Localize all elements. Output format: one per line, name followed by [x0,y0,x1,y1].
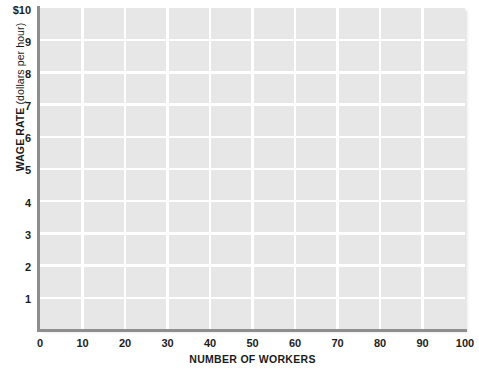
y-axis-tick-labels: $10 9 8 7 6 5 4 3 2 1 [0,0,36,371]
plot-area [40,8,465,330]
x-tick-label-60: 60 [275,336,315,350]
y-axis-line [37,6,40,332]
x-tick-label-70: 70 [318,336,358,350]
x-axis-tick-labels: 0 10 20 30 40 50 60 70 80 90 100 [0,336,479,352]
y-tick-label-8: 8 [0,69,36,80]
y-tick-label-4: 4 [0,198,36,209]
x-tick-label-80: 80 [360,336,400,350]
x-axis-title: NUMBER OF WORKERS [40,353,465,365]
y-tick-label-10: $10 [0,5,36,16]
x-tick-label-0: 0 [20,336,60,350]
y-tick-label-9: 9 [0,37,36,48]
chart-figure: WAGE RATE (dollars per hour) $10 9 8 7 6… [0,0,479,371]
x-tick-label-20: 20 [105,336,145,350]
y-tick-label-2: 2 [0,262,36,273]
gridlines [40,8,465,330]
x-tick-label-40: 40 [190,336,230,350]
y-tick-label-3: 3 [0,230,36,241]
y-tick-label-6: 6 [0,133,36,144]
x-axis-line [37,329,467,332]
x-tick-label-90: 90 [403,336,443,350]
x-tick-label-30: 30 [148,336,188,350]
y-tick-label-7: 7 [0,101,36,112]
x-tick-label-50: 50 [233,336,273,350]
x-tick-label-100: 100 [445,336,479,350]
y-tick-label-1: 1 [0,294,36,305]
x-tick-label-10: 10 [63,336,103,350]
y-tick-label-5: 5 [0,165,36,176]
